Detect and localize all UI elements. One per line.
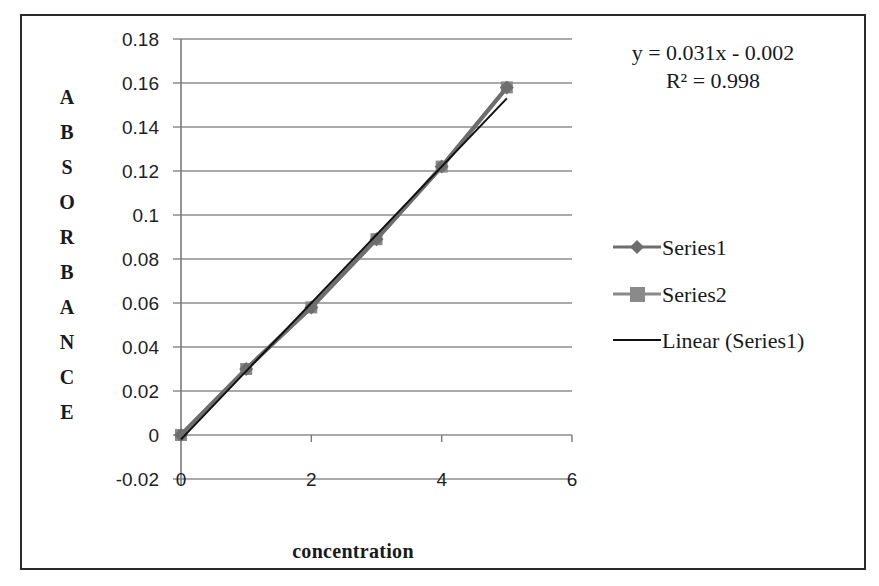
gridlines: [173, 39, 572, 479]
y-axis-label-letter: C: [60, 366, 74, 388]
y-tick-label: 0.08: [122, 249, 159, 270]
y-axis-label-letter: A: [60, 86, 75, 108]
legend-item-series2[interactable]: Series2: [613, 282, 727, 307]
diamond-marker-icon: [630, 240, 644, 254]
y-tick-label: 0: [148, 425, 159, 446]
chart-canvas: 0.180.160.140.120.10.080.060.040.020-0.0…: [0, 0, 879, 586]
y-tick-label: 0.18: [122, 29, 159, 50]
y-axis-tick-labels: 0.180.160.140.120.10.080.060.040.020-0.0…: [116, 29, 160, 490]
y-axis-label-letter: B: [60, 121, 73, 143]
y-axis-label-letter: A: [60, 296, 75, 318]
x-tick-label: 4: [436, 469, 447, 490]
legend-label: Series2: [662, 282, 727, 307]
y-axis-label-letter: B: [60, 261, 73, 283]
y-tick-label: 0.14: [122, 117, 159, 138]
y-axis-label-letter: E: [60, 401, 73, 423]
x-tick-label: 0: [176, 469, 187, 490]
r-squared-value: R² = 0.998: [666, 68, 760, 93]
y-axis-label: ABSORBANCE: [59, 86, 75, 423]
y-tick-label: 0.1: [133, 205, 159, 226]
legend-label: Linear (Series1): [662, 328, 804, 353]
y-tick-label: -0.02: [116, 469, 159, 490]
axes: [181, 39, 572, 485]
y-tick-label: 0.06: [122, 293, 159, 314]
square-marker-icon: [630, 287, 645, 302]
y-tick-label: 0.16: [122, 73, 159, 94]
legend-label: Series1: [662, 235, 727, 260]
y-axis-label-letter: O: [59, 191, 75, 213]
data-series: [174, 80, 514, 442]
y-tick-label: 0.04: [122, 337, 159, 358]
legend-item-series1[interactable]: Series1: [613, 235, 727, 260]
trendline-line: [181, 98, 507, 439]
x-tick-label: 6: [567, 469, 578, 490]
y-axis-label-letter: N: [60, 331, 75, 353]
series-line: [181, 87, 507, 435]
y-axis-label-letter: S: [61, 156, 72, 178]
y-tick-label: 0.02: [122, 381, 159, 402]
x-tick-label: 2: [306, 469, 317, 490]
legend: Series1 Series2 Linear (Series1): [613, 235, 804, 353]
y-axis-label-letter: R: [60, 226, 75, 248]
trendline-equation: y = 0.031x - 0.002: [632, 40, 795, 65]
legend-item-linear-series1[interactable]: Linear (Series1): [613, 328, 804, 353]
y-tick-label: 0.12: [122, 161, 159, 182]
x-axis-label: concentration: [292, 540, 414, 562]
trendline: [181, 98, 507, 439]
